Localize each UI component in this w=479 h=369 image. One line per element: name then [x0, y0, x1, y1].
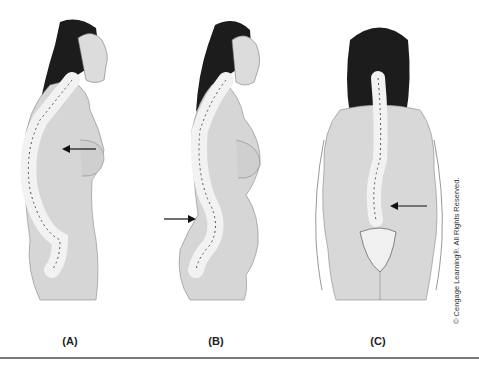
copyright-notice: © Cengage Learning®. All Rights Reserved… — [452, 177, 461, 324]
figure-panel-a — [0, 0, 160, 310]
lordosis-illustration — [150, 0, 310, 310]
arrow-icon — [164, 215, 196, 223]
head — [232, 36, 260, 85]
kyphosis-illustration — [0, 0, 160, 310]
left-arm — [316, 140, 324, 290]
panel-label-a: (A) — [50, 335, 90, 347]
bottom-rule — [0, 357, 479, 359]
panel-label-b: (B) — [196, 335, 236, 347]
figure-panel-b — [150, 0, 310, 310]
panel-label-c: (C) — [358, 335, 398, 347]
head — [78, 33, 107, 82]
